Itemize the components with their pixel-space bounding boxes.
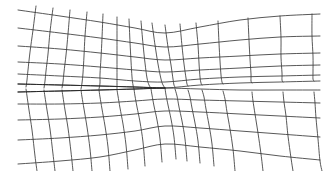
mesh-figure	[0, 0, 326, 171]
mesh-canvas	[0, 0, 326, 171]
